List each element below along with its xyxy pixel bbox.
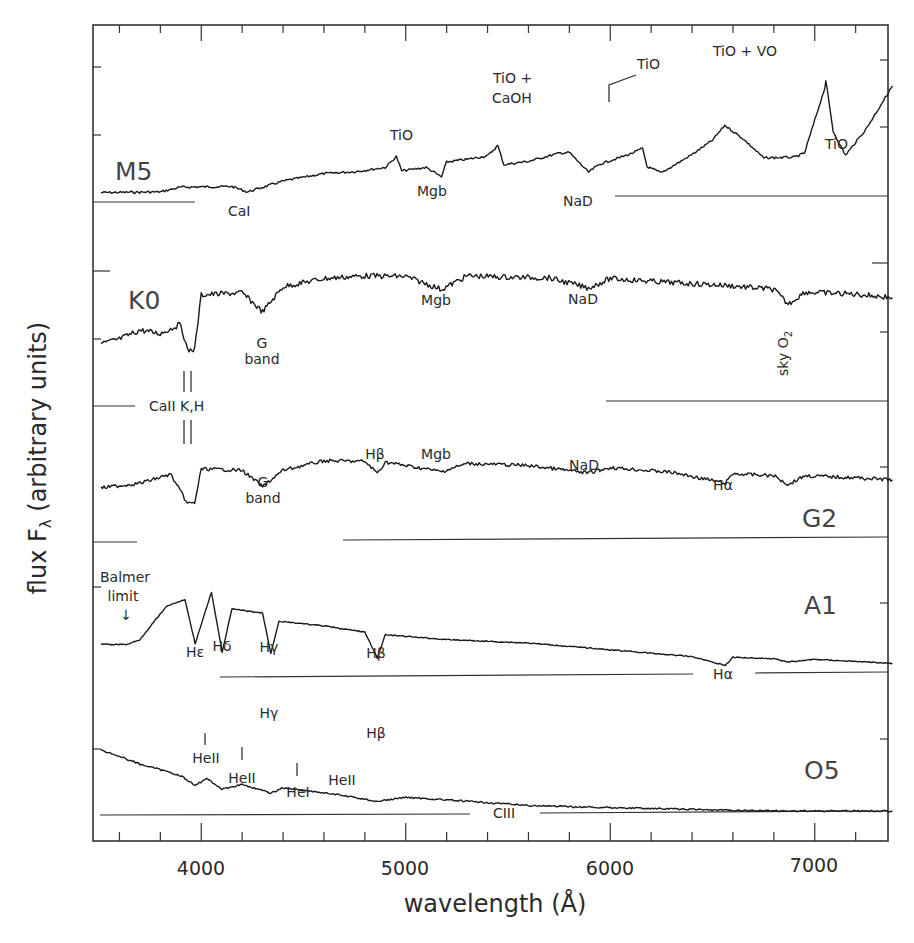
label-mgb: Mgb xyxy=(421,446,451,462)
type-label-k0: K0 xyxy=(128,286,160,315)
label-halpha: Hα xyxy=(713,666,733,682)
label-ciii: CIII xyxy=(493,805,515,821)
label-hepsilon: Hε xyxy=(186,644,204,660)
label-tio-vo: TiO + VO xyxy=(712,43,777,59)
type-label-g2: G2 xyxy=(802,504,837,533)
label-cai: CaI xyxy=(228,203,250,219)
label-sky-o2: sky O2 xyxy=(775,331,794,376)
label-mgb: Mgb xyxy=(421,292,451,308)
type-label-a1: A1 xyxy=(804,591,837,620)
label-hgamma: Hγ xyxy=(260,705,279,721)
zero-line-o5 xyxy=(100,814,470,815)
stellar-spectra-chart: flux Fλ (arbitrary units) xyxy=(0,0,914,943)
label-hbeta: Hβ xyxy=(366,725,385,741)
type-label-o5: O5 xyxy=(804,756,840,785)
label-heii: HeII xyxy=(328,772,355,788)
x-tick-label: 4000 xyxy=(177,857,225,879)
spectrum-g2 xyxy=(101,459,893,503)
label-tio-caoh: CaOH xyxy=(492,90,532,106)
label-balmer-limit: Balmer xyxy=(100,569,150,585)
x-tick-label: 6000 xyxy=(586,857,634,879)
label-hgamma: Hγ xyxy=(260,639,279,655)
label-g-band: G xyxy=(258,474,269,490)
annotations-a1: Balmer limit ↓ Hε Hδ Hγ Hβ Hα xyxy=(100,569,733,682)
label-caii-kh: CaII K,H xyxy=(149,398,204,414)
label-hdelta: Hδ xyxy=(212,638,231,654)
label-tio: TiO xyxy=(389,127,413,143)
annotations-g2: G band Hβ Mgb NaD Hα xyxy=(245,446,733,506)
spectrum-o5 xyxy=(101,749,893,811)
label-balmer-limit: limit xyxy=(108,588,139,604)
x-tick-labels: 4000 5000 6000 7000 xyxy=(177,854,838,879)
x-tick-label: 7000 xyxy=(790,854,838,876)
zero-line-a1 xyxy=(220,674,693,677)
label-tio: TiO xyxy=(636,56,660,72)
x-tick-label: 5000 xyxy=(381,857,429,879)
arrow-down-icon: ↓ xyxy=(120,607,132,623)
annotations-m5: CaI TiO Mgb TiO + CaOH NaD TiO TiO + VO … xyxy=(228,43,848,219)
label-nad: NaD xyxy=(563,193,593,209)
plot-frame xyxy=(93,25,888,841)
label-halpha: Hα xyxy=(713,477,733,493)
label-hbeta: Hβ xyxy=(365,446,384,462)
type-label-m5: M5 xyxy=(115,157,152,186)
label-tio-caoh: TiO + xyxy=(492,70,532,86)
spectrum-k0 xyxy=(101,273,893,352)
line-markers xyxy=(184,75,636,776)
svg-text:flux Fλ (arbitrary units): flux Fλ (arbitrary units) xyxy=(24,322,55,594)
spectrum-a1 xyxy=(101,593,893,666)
label-g-band: band xyxy=(244,351,279,367)
label-mgb: Mgb xyxy=(417,183,447,199)
label-hei: HeI xyxy=(286,784,309,800)
annotations-o5: HeII HeII Hγ HeI HeII Hβ CIII xyxy=(192,705,515,821)
label-nad: NaD xyxy=(569,457,599,473)
label-g-band: band xyxy=(245,490,280,506)
label-g-band: G xyxy=(257,335,268,351)
x-axis-ticks xyxy=(119,25,855,841)
label-tio: TiO xyxy=(824,136,848,152)
svg-text:sky O2: sky O2 xyxy=(775,331,794,376)
x-axis-title: wavelength (Å) xyxy=(404,889,587,918)
zero-lines xyxy=(93,196,888,815)
annotations-k0: G band Mgb NaD sky O2 CaII K,H xyxy=(149,291,794,414)
label-heii: HeII xyxy=(228,770,255,786)
label-heii: HeII xyxy=(192,750,219,766)
label-nad: NaD xyxy=(568,291,598,307)
label-hbeta: Hβ xyxy=(366,645,385,661)
y-axis-title: flux Fλ (arbitrary units) xyxy=(24,322,55,594)
